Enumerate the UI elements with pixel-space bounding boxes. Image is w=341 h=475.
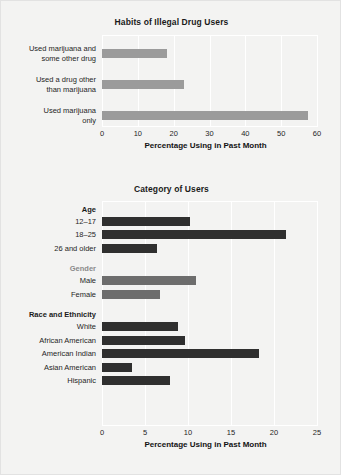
plot-top-rule: [102, 35, 317, 36]
category-label-race-and-ethnicity-4: Hispanic: [5, 376, 96, 385]
bar-habits-0: [102, 49, 167, 58]
plot-bottom-rule: [102, 126, 317, 127]
gridline-x-60: [317, 35, 318, 127]
x-tick-label-habits-60: 60: [307, 129, 327, 138]
category-label-habits-0: Used marijuana andsome other drug: [7, 44, 96, 63]
x-tick-label-category-0: 0: [92, 428, 112, 437]
category-label-habits-1: Used a drug otherthan marijuana: [7, 75, 96, 94]
category-label-age-1: 18–25: [5, 230, 96, 239]
category-label-age-2: 26 and older: [5, 244, 96, 253]
bar-race-and-ethnicity-1: [102, 336, 185, 345]
x-tick-label-habits-0: 0: [92, 129, 112, 138]
group-label-race-and-ethnicity: Race and Ethnicity: [5, 310, 96, 319]
category-label-race-and-ethnicity-2: American Indian: [5, 349, 96, 358]
bar-habits-1: [102, 80, 184, 89]
category-label-habits-1-line-0: Used a drug other: [7, 75, 96, 85]
category-label-race-and-ethnicity-3: Asian American: [5, 363, 96, 372]
category-label-habits-2-line-0: Used marijuana: [7, 106, 96, 116]
x-tick-label-habits-20: 20: [164, 129, 184, 138]
category-label-gender-0: Male: [5, 276, 96, 285]
bar-gender-1: [102, 290, 160, 299]
bar-race-and-ethnicity-2: [102, 349, 259, 358]
bar-race-and-ethnicity-0: [102, 322, 178, 331]
group-label-gender: Gender: [5, 264, 96, 273]
gridline-x-25: [317, 201, 318, 426]
figure-container: Habits of Illegal Drug Users Percentage …: [0, 0, 341, 475]
bar-age-2: [102, 244, 157, 253]
group-label-age: Age: [5, 205, 96, 214]
category-label-habits-2-line-1: only: [7, 116, 96, 126]
x-tick-label-habits-40: 40: [235, 129, 255, 138]
bar-age-1: [102, 230, 286, 239]
plot-area-habits: [102, 35, 317, 127]
category-label-race-and-ethnicity-1: African American: [5, 336, 96, 345]
chart-title-category: Category of Users: [1, 184, 341, 194]
x-tick-label-category-20: 20: [264, 428, 284, 437]
category-label-habits-0-line-0: Used marijuana and: [7, 44, 96, 54]
category-label-habits-1-line-1: than marijuana: [7, 85, 96, 95]
x-tick-label-habits-30: 30: [200, 129, 220, 138]
x-tick-label-habits-50: 50: [271, 129, 291, 138]
bar-race-and-ethnicity-4: [102, 376, 170, 385]
chart-title-habits: Habits of Illegal Drug Users: [1, 17, 341, 27]
plot-area-category: [102, 201, 317, 426]
x-tick-label-category-10: 10: [178, 428, 198, 437]
x-axis-title-habits-text: Percentage Using in Past Month: [144, 141, 266, 150]
category-label-age-0: 12–17: [5, 217, 96, 226]
x-axis-title-category-text: Percentage Using in Past Month: [144, 440, 266, 449]
x-axis-title-habits: Percentage Using in Past Month: [1, 141, 341, 150]
bar-race-and-ethnicity-3: [102, 363, 132, 372]
category-label-habits-2: Used marijuanaonly: [7, 106, 96, 125]
x-tick-label-category-5: 5: [135, 428, 155, 437]
category-label-habits-0-line-1: some other drug: [7, 54, 96, 64]
x-tick-label-category-15: 15: [221, 428, 241, 437]
x-tick-label-habits-10: 10: [128, 129, 148, 138]
plot-top-rule: [102, 201, 317, 202]
x-axis-title-category: Percentage Using in Past Month: [1, 440, 341, 449]
bar-habits-2: [102, 111, 308, 120]
category-label-race-and-ethnicity-0: White: [5, 322, 96, 331]
bar-gender-0: [102, 276, 196, 285]
x-tick-label-category-25: 25: [307, 428, 327, 437]
bar-age-0: [102, 217, 190, 226]
category-label-gender-1: Female: [5, 290, 96, 299]
plot-bottom-rule: [102, 425, 317, 426]
